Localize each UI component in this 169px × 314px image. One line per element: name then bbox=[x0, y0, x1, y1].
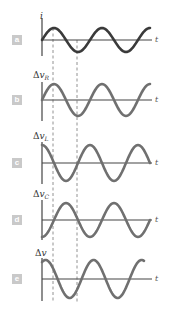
dashed-guides bbox=[53, 28, 77, 302]
panel-b-badge: b bbox=[12, 95, 22, 105]
ylabel-current: i bbox=[40, 11, 43, 21]
ylabel-sub: R bbox=[45, 74, 50, 81]
t-label-e: t bbox=[155, 275, 158, 283]
panel-e-badge: e bbox=[12, 274, 22, 284]
ylabel-sub: L bbox=[45, 135, 49, 142]
t-label-a: t bbox=[155, 36, 158, 44]
ylabel-vr: ΔvR bbox=[33, 70, 49, 83]
panel-a-badge: a bbox=[12, 35, 22, 45]
ylabel-v-total: Δv bbox=[35, 248, 47, 258]
t-label-d: t bbox=[155, 216, 158, 224]
ylabel-vc: ΔvC bbox=[33, 189, 49, 202]
panel-c-badge: c bbox=[12, 158, 22, 168]
rlc-phase-diagram bbox=[0, 0, 169, 314]
ylabel-sub: C bbox=[45, 193, 50, 200]
ylabel-vl: ΔvL bbox=[33, 131, 49, 144]
ylabel-var: i bbox=[40, 11, 43, 21]
t-label-c: t bbox=[155, 159, 158, 167]
t-label-b: t bbox=[155, 96, 158, 104]
panel-d-badge: d bbox=[12, 215, 22, 225]
ylabel-var: v bbox=[42, 248, 47, 258]
